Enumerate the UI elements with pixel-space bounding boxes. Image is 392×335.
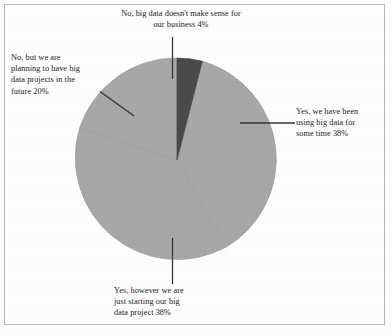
slice-label-no-sense: No, big data doesn't make sense for our …: [88, 8, 274, 30]
pie-chart-figure: No, big data doesn't make sense for our …: [0, 0, 392, 335]
slice-label-using-some-time: Yes, we have been using big data for som…: [296, 106, 388, 140]
slice-label-just-starting: Yes, however we are just starting our bi…: [114, 285, 244, 319]
slice-label-planning-future: No, but we are planning to have big data…: [11, 52, 115, 97]
